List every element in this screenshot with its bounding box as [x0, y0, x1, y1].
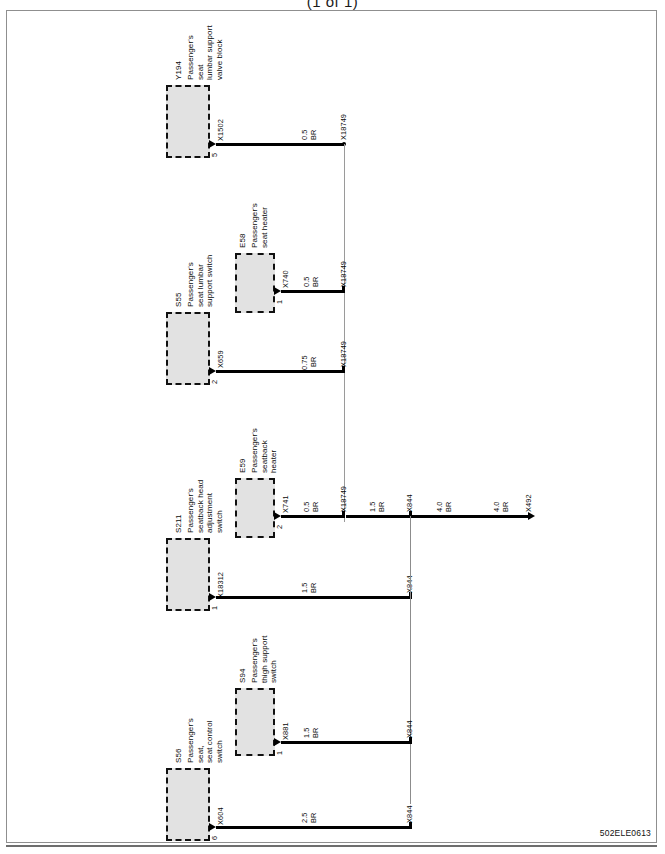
- pin-number-e58: 1: [275, 300, 284, 304]
- component-name-s94: Passenger's thigh support switch: [250, 635, 279, 683]
- component-box-s94[interactable]: [235, 688, 275, 756]
- wire-color-s94: BR: [311, 728, 320, 738]
- bus-line-x844: [410, 516, 411, 804]
- wire-e59-to-x18749: [281, 515, 344, 518]
- connector-label-x1502: X1502: [216, 119, 225, 141]
- bus-line-x18749: [344, 144, 345, 522]
- pin-number-s94: 1: [275, 751, 284, 755]
- pin-arrow-s211: [209, 593, 216, 601]
- splice-label-x844-2: X844: [405, 720, 414, 738]
- component-name-s56: Passenger's seat, seat control switch: [186, 718, 224, 763]
- component-box-e59[interactable]: [235, 478, 275, 538]
- pin-number-s55: 2: [210, 380, 219, 384]
- component-id-e59: E59: [238, 458, 248, 473]
- terminal-arrow-x492: [528, 512, 535, 520]
- wire-s56-to-x844: [216, 826, 410, 829]
- wire-gauge-s94: 1.5: [302, 727, 311, 738]
- pin-arrow-s56: [209, 823, 216, 831]
- wire-color-trunk-40a: BR: [444, 502, 453, 512]
- splice-label-x18749-3: X18749: [339, 341, 348, 367]
- splice-marker-x844-4: [409, 822, 412, 829]
- component-name-y194: Passenger's seat lumbar support valve bl…: [186, 25, 224, 80]
- pin-number-s211: 1: [210, 606, 219, 610]
- drawing-id: 502ELE0613: [600, 828, 651, 838]
- diagram-frame: [6, 10, 657, 843]
- pin-number-y194: 5: [210, 153, 219, 157]
- component-name-e59: Passenger's seatback heater: [250, 428, 279, 473]
- wire-e58-to-x18749: [281, 290, 344, 293]
- wire-color-s211: BR: [309, 583, 318, 593]
- splice-label-x18749-1: X18749: [339, 114, 348, 140]
- wire-gauge-s55: 0.75: [300, 355, 309, 370]
- connector-label-x741: X741: [281, 495, 290, 513]
- wire-gauge-e59: 0.5: [302, 501, 311, 512]
- component-id-y194: Y194: [174, 61, 184, 80]
- wire-gauge-trunk-40b: 4.0: [492, 501, 501, 512]
- wire-color-trunk-15: BR: [377, 502, 386, 512]
- wire-gauge-e58: 0.5: [302, 276, 311, 287]
- frame-bottom-rule: [6, 845, 657, 847]
- connector-label-x18312: X18312: [216, 572, 225, 598]
- component-name-s55: Passenger's seat lumbar support switch: [186, 254, 215, 307]
- wire-s94-to-x844: [281, 741, 410, 744]
- splice-marker-x844-2: [409, 737, 412, 744]
- splice-label-x18749-2: X18749: [339, 261, 348, 287]
- component-box-y194[interactable]: [166, 85, 210, 158]
- page-title: (1 of 1): [0, 0, 665, 10]
- pin-arrow-e59: [274, 512, 281, 520]
- wire-color-s56: BR: [309, 813, 318, 823]
- component-box-s56[interactable]: [166, 768, 210, 841]
- component-box-e58[interactable]: [235, 253, 275, 313]
- pin-arrow-y194: [209, 140, 216, 148]
- pin-number-s56: 6: [210, 836, 219, 840]
- component-id-s211: S211: [174, 515, 184, 534]
- terminal-label-x492: X492: [524, 494, 533, 512]
- pin-arrow-s94: [274, 738, 281, 746]
- splice-marker-x18749-2: [342, 286, 345, 293]
- wire-gauge-y194: 0.5: [300, 129, 309, 140]
- wire-color-e59: BR: [311, 502, 320, 512]
- wire-s55-to-x18749: [216, 370, 344, 373]
- component-id-s56: S56: [174, 748, 184, 763]
- splice-label-x18749-4: X18749: [339, 486, 348, 512]
- component-name-e58: Passenger's seat heater: [250, 203, 269, 248]
- wire-s211-to-x844: [216, 596, 410, 599]
- wire-color-trunk-40b: BR: [501, 502, 510, 512]
- splice-marker-x18749-4: [342, 511, 345, 518]
- splice-label-x844-1: X844: [405, 494, 414, 512]
- splice-label-x844-4: X844: [405, 805, 414, 823]
- wire-y194-to-x18749: [216, 143, 344, 146]
- connector-label-x604: X604: [216, 807, 225, 825]
- splice-marker-x18749-3: [342, 366, 345, 373]
- component-box-s211[interactable]: [166, 538, 210, 611]
- pin-arrow-s55: [209, 367, 216, 375]
- wire-color-y194: BR: [309, 130, 318, 140]
- wire-color-s55: BR: [309, 357, 318, 367]
- component-box-s55[interactable]: [166, 312, 210, 385]
- wire-color-e58: BR: [311, 277, 320, 287]
- wiring-diagram-page: (1 of 1) Y194 Passenger's seat lumbar su…: [0, 0, 665, 854]
- wire-gauge-s211: 1.5: [300, 582, 309, 593]
- component-id-s94: S94: [238, 668, 248, 683]
- pin-arrow-e58: [274, 287, 281, 295]
- connector-label-x881: X881: [281, 722, 290, 740]
- wire-x844-to-x492: [412, 515, 530, 518]
- component-id-s55: S55: [174, 292, 184, 307]
- component-id-e58: E58: [238, 233, 248, 248]
- wire-gauge-trunk-40a: 4.0: [435, 501, 444, 512]
- connector-label-x740: X740: [281, 270, 290, 288]
- wire-x18749-to-x844: [346, 515, 410, 518]
- connector-label-x659: X659: [216, 350, 225, 368]
- pin-number-e59: 2: [275, 525, 284, 529]
- wire-gauge-s56: 2.5: [300, 812, 309, 823]
- component-name-s211: Passenger's seatback head adjustment swi…: [186, 480, 224, 533]
- wire-gauge-trunk-15: 1.5: [368, 501, 377, 512]
